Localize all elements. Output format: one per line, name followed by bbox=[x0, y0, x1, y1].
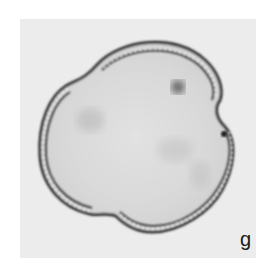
dark-spot bbox=[172, 81, 184, 93]
pollen-grain-image bbox=[0, 0, 271, 278]
panel-label: g bbox=[240, 229, 251, 249]
